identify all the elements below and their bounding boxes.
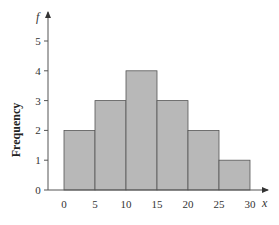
y-tick-label: 0 — [35, 184, 41, 196]
histogram-bar — [95, 101, 126, 190]
histogram-bar — [126, 71, 157, 190]
x-axis-ticks: 051015202530 — [61, 198, 256, 210]
x-axis-label: x — [261, 196, 268, 210]
x-tick-label: 25 — [214, 198, 226, 210]
x-tick-label: 5 — [92, 198, 98, 210]
x-tick-label: 30 — [245, 198, 257, 210]
x-tick-label: 15 — [152, 198, 164, 210]
histogram-bar — [64, 130, 95, 190]
x-tick-label: 0 — [61, 198, 67, 210]
y-tick-label: 5 — [35, 35, 41, 47]
y-tick-label: 3 — [35, 95, 41, 107]
histogram-bars — [64, 71, 250, 190]
histogram-bar — [188, 130, 219, 190]
histogram-chart: 012345 051015202530 f x Frequency — [0, 0, 279, 225]
histogram-bar — [219, 160, 250, 190]
x-tick-label: 10 — [121, 198, 133, 210]
x-tick-label: 20 — [183, 198, 195, 210]
histogram-bar — [157, 101, 188, 190]
y-tick-label: 1 — [35, 154, 41, 166]
y-axis-label: Frequency — [9, 103, 23, 157]
y-tick-label: 2 — [35, 124, 41, 136]
y-axis-symbol: f — [36, 10, 41, 24]
y-axis-ticks: 012345 — [35, 35, 48, 196]
y-tick-label: 4 — [35, 65, 41, 77]
